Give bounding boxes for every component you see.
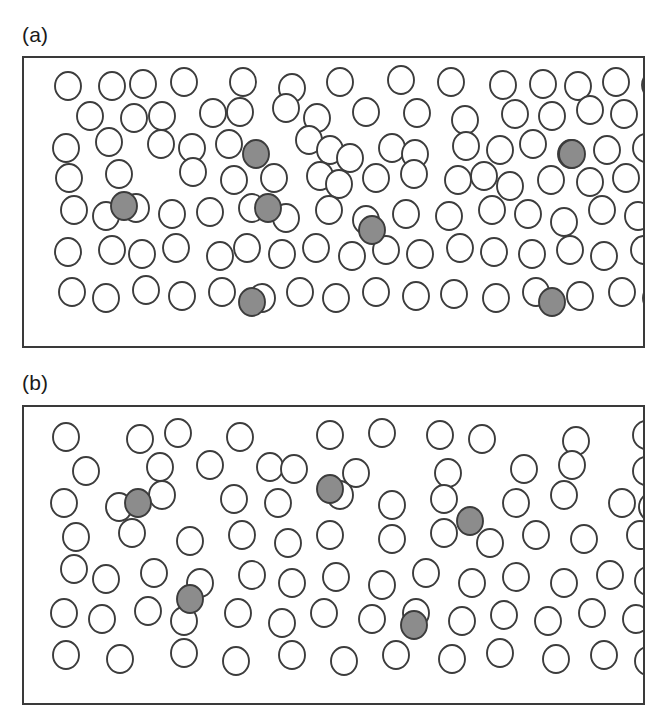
open-particle: [369, 419, 395, 447]
open-particle: [227, 423, 253, 451]
open-particle: [225, 599, 251, 627]
open-particle: [61, 196, 87, 224]
panel-b-particle-field: [24, 407, 645, 705]
open-particle: [261, 164, 287, 192]
open-particle: [613, 164, 639, 192]
open-particle: [393, 200, 419, 228]
open-particle: [149, 481, 175, 509]
panel-a-particle-field: [24, 58, 645, 348]
open-particle: [159, 200, 185, 228]
open-particle: [141, 559, 167, 587]
open-particle: [59, 278, 85, 306]
open-particle: [73, 457, 99, 485]
open-particle: [559, 451, 585, 479]
open-particle: [135, 597, 161, 625]
filled-particle: [125, 489, 151, 517]
open-particle: [99, 72, 125, 100]
open-particle: [221, 166, 247, 194]
open-particle: [623, 605, 645, 633]
open-particle: [491, 601, 517, 629]
open-particle: [216, 130, 242, 158]
open-particle: [359, 605, 385, 633]
open-particle: [379, 525, 405, 553]
open-particle: [323, 563, 349, 591]
filled-particle: [255, 194, 281, 222]
open-particle: [535, 607, 561, 635]
open-particle: [53, 134, 79, 162]
filled-particle: [559, 140, 585, 168]
open-particle: [61, 555, 87, 583]
open-particle: [577, 168, 603, 196]
open-particle: [273, 94, 299, 122]
open-particle: [643, 284, 645, 312]
open-particle: [200, 99, 226, 127]
open-particle: [177, 527, 203, 555]
open-particle: [633, 457, 645, 485]
open-particle: [487, 639, 513, 667]
open-particle: [557, 236, 583, 264]
open-particle: [538, 166, 564, 194]
open-particle: [180, 158, 206, 186]
open-particle: [129, 240, 155, 268]
open-particle: [551, 569, 577, 597]
open-particle: [639, 493, 645, 521]
filled-particle: [317, 475, 343, 503]
open-particle: [388, 66, 414, 94]
open-particle: [502, 100, 528, 128]
open-particle: [209, 278, 235, 306]
open-particle: [609, 489, 635, 517]
open-particle: [436, 202, 462, 230]
open-particle: [93, 565, 119, 593]
open-particle: [404, 99, 430, 127]
open-particle: [197, 451, 223, 479]
open-particle: [383, 641, 409, 669]
open-particle: [133, 276, 159, 304]
open-particle: [53, 423, 79, 451]
open-particle: [239, 561, 265, 589]
open-particle: [265, 489, 291, 517]
open-particle: [431, 519, 457, 547]
open-particle: [369, 571, 395, 599]
open-particle: [279, 641, 305, 669]
panel-a-label: (a): [22, 24, 48, 45]
open-particle: [603, 68, 629, 96]
open-particle: [401, 160, 427, 188]
open-particle: [281, 455, 307, 483]
open-particle: [51, 599, 77, 627]
open-particle: [577, 96, 603, 124]
open-particle: [257, 453, 283, 481]
open-particle: [275, 529, 301, 557]
open-particle: [234, 234, 260, 262]
open-particle: [55, 72, 81, 100]
open-particle: [316, 196, 342, 224]
open-particle: [53, 641, 79, 669]
open-particle: [579, 599, 605, 627]
open-particle: [497, 172, 523, 200]
open-particle: [635, 567, 645, 595]
open-particle: [165, 419, 191, 447]
open-particle: [93, 284, 119, 312]
open-particle: [229, 521, 255, 549]
filled-particle: [401, 611, 427, 639]
open-particle: [571, 525, 597, 553]
open-particle: [627, 521, 645, 549]
open-particle: [551, 481, 577, 509]
open-particle: [530, 70, 556, 98]
open-particle: [379, 134, 405, 162]
open-particle: [96, 128, 122, 156]
open-particle: [511, 455, 537, 483]
filled-particle: [243, 140, 269, 168]
filled-particle: [111, 192, 137, 220]
open-particle: [337, 144, 363, 172]
open-particle: [449, 607, 475, 635]
open-particle: [51, 489, 77, 517]
open-particle: [431, 485, 457, 513]
open-particle: [477, 529, 503, 557]
open-particle: [591, 242, 617, 270]
open-particle: [287, 278, 313, 306]
open-particle: [107, 645, 133, 673]
open-particle: [447, 234, 473, 262]
open-particle: [303, 234, 329, 262]
open-particle: [56, 164, 82, 192]
open-particle: [169, 282, 195, 310]
